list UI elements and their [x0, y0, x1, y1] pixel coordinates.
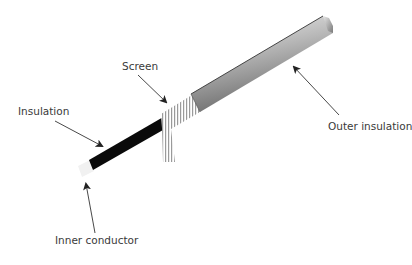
outer-insulation-arrow: [294, 67, 339, 115]
insulation-label: Insulation: [18, 106, 69, 117]
screen-layer: [161, 95, 200, 162]
inner-conductor-arrow: [86, 184, 95, 233]
outer-insulation-label: Outer insulation: [328, 121, 412, 132]
outer-insulation-layer: [191, 16, 333, 112]
inner-conductor-label: Inner conductor: [55, 235, 138, 246]
insulation-arrow: [55, 121, 102, 146]
screen-arrow: [138, 75, 166, 102]
insulation-layer: [89, 116, 170, 170]
screen-label: Screen: [122, 61, 158, 72]
